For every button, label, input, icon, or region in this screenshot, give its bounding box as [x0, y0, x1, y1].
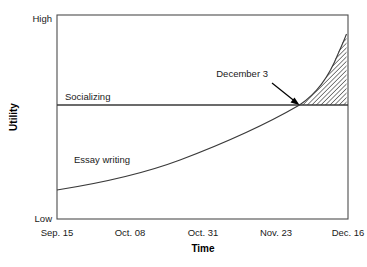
x-axis-title: Time: [191, 243, 215, 254]
x-tick-2: Oct. 31: [188, 227, 219, 238]
chart-svg: December 3 Socializing Essay writing Hig…: [0, 0, 367, 267]
utility-vs-time-chart: December 3 Socializing Essay writing Hig…: [0, 0, 367, 267]
x-tick-1: Oct. 08: [115, 227, 146, 238]
y-tick-low: Low: [35, 213, 53, 224]
december-3-label: December 3: [216, 68, 268, 79]
x-tick-3: Nov. 23: [260, 227, 292, 238]
y-tick-high: High: [32, 13, 52, 24]
x-tick-0: Sep. 15: [41, 227, 74, 238]
y-axis-title: Utility: [8, 103, 19, 131]
socializing-label: Socializing: [65, 91, 110, 102]
x-tick-4: Dec. 16: [332, 227, 365, 238]
essay-writing-label: Essay writing: [74, 154, 130, 165]
